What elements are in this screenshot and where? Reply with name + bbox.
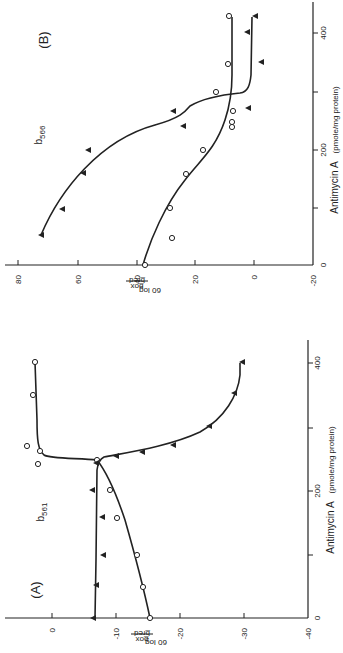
panel-a-species: b561 [35, 502, 49, 521]
panel-a-ylabel: 60 log b̲red b̲ox [131, 629, 167, 647]
panel-a-circles [24, 359, 152, 620]
tick-label: 0 [313, 615, 322, 620]
tick-label: 80 [14, 274, 23, 283]
panel-b-species: b566 [33, 125, 47, 144]
panel-a-xlabel: Antimycin A(pmole/mg protein) [325, 426, 336, 554]
panel-b-value-ticks: 80 60 40 20 0 -20 [14, 260, 318, 287]
tick-label: 60 [74, 274, 83, 283]
tick-label: -40 [304, 627, 313, 639]
panel-a-value-ticks: 0 -10 -20 -30 -40 [48, 613, 313, 640]
tick-label: 400 [313, 356, 322, 370]
panel-a-triangle-curve [95, 363, 240, 618]
tick-label: -20 [309, 274, 318, 286]
svg-text:b̲ox: b̲ox [131, 282, 145, 291]
tick-label: 0 [250, 274, 259, 279]
tick-label: -10 [112, 627, 121, 639]
tick-label: -20 [176, 627, 185, 639]
panel-a-antimycin-ticks: 0 200 400 [308, 356, 322, 620]
panel-b-antimycin-ticks: 0 200 400 [313, 26, 328, 267]
tick-label: 200 [313, 484, 322, 498]
panel-b-circle-curve [143, 17, 232, 265]
panel-a-label: (A) [28, 581, 43, 598]
panel-a: 0 -10 -20 -30 -40 0 200 400 Antimycin A(… [5, 340, 336, 647]
tick-label: 20 [191, 274, 200, 283]
panel-b-xlabel: Antimycin A(pmole/mg protein) [329, 86, 340, 214]
tick-label: 0 [48, 627, 57, 632]
panel-b-triangle-curve [41, 17, 252, 235]
tick-label: 200 [319, 143, 328, 157]
tick-label: -30 [240, 627, 249, 639]
svg-text:b̲ox: b̲ox [136, 635, 150, 644]
figure: 80 60 40 20 0 -20 0 200 400 Antimycin A(… [0, 0, 343, 653]
panel-b-label: (B) [36, 31, 51, 48]
panel-b-ylabel: 60 log b̲red b̲ox [126, 276, 161, 295]
tick-label: 400 [319, 26, 328, 40]
panel-b: 80 60 40 20 0 -20 0 200 400 Antimycin A(… [5, 2, 340, 295]
tick-label: 0 [319, 262, 328, 267]
